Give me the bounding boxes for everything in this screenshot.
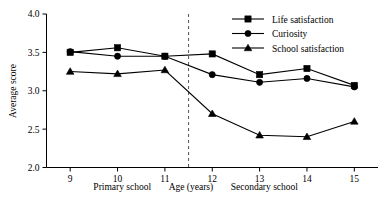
data-point-circle (209, 72, 215, 78)
data-point-triangle (161, 66, 169, 73)
chart-figure: 2.02.53.03.54.0 Average score 9101112131… (0, 0, 385, 204)
data-point-circle (245, 30, 251, 36)
data-point-circle (351, 84, 357, 90)
series-line (70, 70, 354, 137)
data-point-triangle (66, 68, 74, 75)
data-point-triangle (351, 118, 359, 125)
x-axis-ticks (70, 168, 354, 172)
data-point-circle (162, 53, 168, 59)
data-point-circle (67, 49, 73, 55)
x-axis-title: Age (years) (169, 182, 214, 193)
y-tick-label: 2.5 (28, 125, 40, 135)
data-point-circle (304, 75, 310, 81)
x-tick-label: 9 (68, 174, 73, 184)
data-point-square (114, 45, 120, 51)
legend-label: School satisfaction (272, 44, 344, 54)
y-tick-label: 3.5 (28, 48, 40, 58)
chart-legend: Life satisfactionCuriositySchool satisfa… (232, 15, 344, 54)
data-point-square (304, 65, 310, 71)
y-tick-label: 2.0 (28, 163, 40, 173)
x-tick-label: 14 (302, 174, 312, 184)
y-tick-label: 3.0 (28, 86, 40, 96)
primary-school-label: Primary school (93, 182, 151, 192)
legend-label: Curiosity (272, 29, 308, 39)
legend-item-school-satisfaction[interactable]: School satisfaction (232, 44, 344, 54)
data-point-square (257, 72, 263, 78)
x-axis: 9101112131415 Age (years) Primary school… (47, 168, 379, 194)
y-axis-title: Average score (8, 64, 18, 118)
data-point-square (245, 16, 251, 22)
data-series-group (66, 45, 358, 140)
x-tick-label: 15 (350, 174, 360, 184)
line-chart: 2.02.53.03.54.0 Average score 9101112131… (0, 0, 385, 204)
data-point-square (209, 51, 215, 57)
legend-item-curiosity[interactable]: Curiosity (232, 29, 308, 39)
secondary-school-label: Secondary school (231, 182, 299, 192)
data-point-circle (257, 79, 263, 85)
y-axis: 2.02.53.03.54.0 Average score (8, 9, 47, 173)
data-point-circle (114, 53, 120, 59)
y-axis-tick-labels: 2.02.53.03.54.0 (28, 9, 40, 173)
y-axis-ticks (43, 14, 47, 168)
legend-item-life-satisfaction[interactable]: Life satisfaction (232, 15, 334, 25)
data-point-triangle (256, 131, 264, 138)
legend-label: Life satisfaction (272, 15, 334, 25)
y-tick-label: 4.0 (28, 9, 40, 19)
